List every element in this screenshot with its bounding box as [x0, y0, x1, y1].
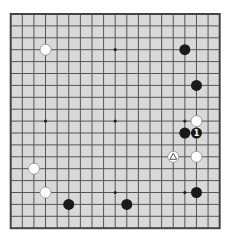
intersection[interactable]	[99, 69, 109, 79]
intersection[interactable]	[168, 140, 178, 150]
intersection[interactable]	[75, 104, 85, 114]
intersection[interactable]	[191, 92, 201, 102]
intersection[interactable]	[41, 199, 51, 209]
intersection[interactable]	[180, 116, 190, 126]
intersection[interactable]	[52, 128, 62, 138]
intersection[interactable]	[87, 176, 97, 186]
intersection[interactable]	[110, 57, 120, 67]
intersection[interactable]	[157, 128, 167, 138]
intersection[interactable]	[17, 116, 27, 126]
intersection[interactable]	[203, 199, 213, 209]
intersection[interactable]	[168, 176, 178, 186]
intersection[interactable]	[99, 176, 109, 186]
intersection[interactable]	[75, 176, 85, 186]
intersection[interactable]	[6, 140, 16, 150]
intersection[interactable]	[6, 223, 16, 233]
intersection[interactable]	[191, 140, 201, 150]
intersection[interactable]	[180, 223, 190, 233]
intersection[interactable]	[203, 140, 213, 150]
intersection[interactable]	[99, 80, 109, 90]
intersection[interactable]	[29, 211, 39, 221]
intersection[interactable]	[29, 33, 39, 43]
intersection[interactable]	[168, 199, 178, 209]
intersection[interactable]	[168, 92, 178, 102]
intersection[interactable]	[52, 176, 62, 186]
intersection[interactable]	[17, 152, 27, 162]
intersection[interactable]	[87, 92, 97, 102]
intersection[interactable]	[29, 152, 39, 162]
intersection[interactable]	[203, 164, 213, 174]
intersection[interactable]	[41, 116, 51, 126]
intersection[interactable]	[17, 69, 27, 79]
intersection[interactable]	[64, 176, 74, 186]
intersection[interactable]	[6, 199, 16, 209]
intersection[interactable]	[133, 21, 143, 31]
intersection[interactable]	[52, 104, 62, 114]
intersection[interactable]	[203, 57, 213, 67]
intersection[interactable]	[191, 9, 201, 19]
intersection[interactable]	[157, 176, 167, 186]
intersection[interactable]	[41, 152, 51, 162]
intersection[interactable]	[110, 104, 120, 114]
intersection[interactable]	[180, 188, 190, 198]
intersection[interactable]	[99, 116, 109, 126]
intersection[interactable]	[122, 33, 132, 43]
intersection[interactable]	[41, 164, 51, 174]
intersection[interactable]	[122, 140, 132, 150]
intersection[interactable]	[133, 33, 143, 43]
intersection[interactable]	[145, 128, 155, 138]
intersection[interactable]	[87, 116, 97, 126]
intersection[interactable]	[6, 128, 16, 138]
intersection[interactable]	[157, 33, 167, 43]
intersection[interactable]	[64, 223, 74, 233]
intersection[interactable]	[41, 69, 51, 79]
intersection[interactable]	[157, 92, 167, 102]
intersection[interactable]	[191, 104, 201, 114]
intersection[interactable]	[87, 199, 97, 209]
intersection[interactable]	[180, 199, 190, 209]
intersection[interactable]	[215, 33, 225, 43]
intersection[interactable]	[41, 128, 51, 138]
intersection[interactable]	[6, 57, 16, 67]
intersection[interactable]	[180, 140, 190, 150]
intersection[interactable]	[17, 211, 27, 221]
intersection[interactable]	[122, 223, 132, 233]
intersection[interactable]	[145, 188, 155, 198]
intersection[interactable]	[75, 57, 85, 67]
intersection[interactable]	[145, 140, 155, 150]
intersection[interactable]	[133, 69, 143, 79]
intersection[interactable]	[157, 9, 167, 19]
intersection[interactable]	[87, 57, 97, 67]
intersection[interactable]	[122, 69, 132, 79]
intersection[interactable]	[215, 104, 225, 114]
intersection[interactable]	[29, 57, 39, 67]
intersection[interactable]	[64, 57, 74, 67]
intersection[interactable]	[203, 92, 213, 102]
intersection[interactable]	[17, 223, 27, 233]
intersection[interactable]	[191, 223, 201, 233]
intersection[interactable]	[6, 9, 16, 19]
intersection[interactable]	[110, 21, 120, 31]
intersection[interactable]	[6, 80, 16, 90]
intersection[interactable]	[110, 33, 120, 43]
intersection[interactable]	[203, 9, 213, 19]
intersection[interactable]	[99, 45, 109, 55]
intersection[interactable]	[180, 33, 190, 43]
intersection[interactable]	[87, 9, 97, 19]
intersection[interactable]	[168, 104, 178, 114]
intersection[interactable]	[75, 140, 85, 150]
intersection[interactable]	[29, 199, 39, 209]
intersection[interactable]	[110, 188, 120, 198]
intersection[interactable]	[64, 9, 74, 19]
intersection[interactable]	[145, 211, 155, 221]
intersection[interactable]	[110, 69, 120, 79]
intersection[interactable]	[87, 69, 97, 79]
intersection[interactable]	[157, 199, 167, 209]
intersection[interactable]	[133, 152, 143, 162]
intersection[interactable]	[215, 128, 225, 138]
intersection[interactable]	[133, 176, 143, 186]
intersection[interactable]	[203, 211, 213, 221]
intersection[interactable]	[110, 199, 120, 209]
intersection[interactable]	[110, 152, 120, 162]
intersection[interactable]	[168, 164, 178, 174]
